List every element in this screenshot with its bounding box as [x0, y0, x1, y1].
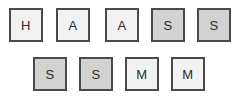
letter-tile[interactable]: S	[197, 8, 231, 42]
letter-tile[interactable]: A	[105, 8, 139, 42]
letter-tile[interactable]: S	[33, 57, 67, 91]
letter-tile[interactable]: H	[9, 8, 43, 42]
letter-tile[interactable]: S	[79, 57, 113, 91]
letter-tile[interactable]: A	[56, 8, 90, 42]
letter-tile[interactable]: S	[151, 8, 185, 42]
letter-tile[interactable]: M	[125, 57, 159, 91]
letter-tile[interactable]: M	[171, 57, 205, 91]
letter-tile-board: HAASSSSMM	[0, 0, 240, 100]
